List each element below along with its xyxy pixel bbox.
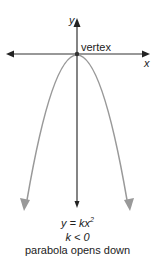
vertex-point xyxy=(75,52,79,56)
equation-label: y = kx2 xyxy=(0,217,155,230)
x-axis-left-arrow-icon xyxy=(6,51,14,58)
equation-text: y = kx xyxy=(61,217,90,229)
y-axis xyxy=(74,18,81,208)
equation-exponent: 2 xyxy=(90,216,94,223)
x-axis-label: x xyxy=(144,57,150,69)
description-label: parabola opens down xyxy=(0,244,155,257)
y-axis-label: y xyxy=(69,14,75,26)
vertex-label: vertex xyxy=(81,41,111,53)
y-axis-bottom-arrow-icon xyxy=(75,201,80,208)
condition-label: k < 0 xyxy=(0,231,155,244)
curve-left-arrow-icon xyxy=(20,198,30,211)
curve-right-arrow-icon xyxy=(124,198,134,211)
